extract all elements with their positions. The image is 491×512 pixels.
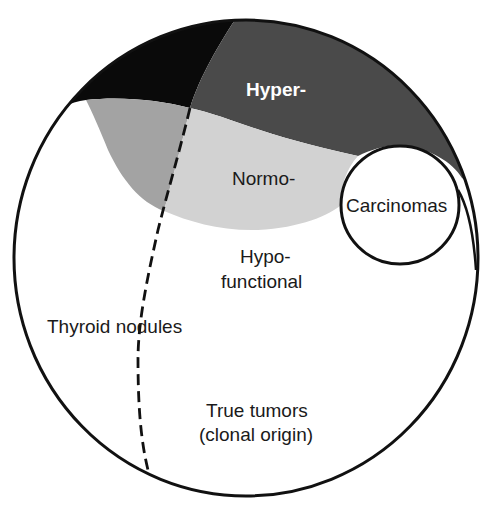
label-normo: Normo- [232, 168, 295, 189]
label-carcinomas: Carcinomas [346, 195, 447, 216]
right-inner-curve [458, 190, 476, 270]
label-hypo-line2: functional [221, 271, 302, 292]
label-thyroid-nodules: Thyroid nodules [47, 316, 182, 337]
label-true-tumors-line1: True tumors [206, 400, 308, 421]
label-hypo-line1: Hypo- [240, 246, 291, 267]
label-true-tumors-line2: (clonal origin) [199, 424, 313, 445]
thyroid-nodule-diagram: Hyper- Normo- Carcinomas Hypo- functiona… [0, 0, 491, 512]
label-hyper: Hyper- [246, 79, 306, 100]
